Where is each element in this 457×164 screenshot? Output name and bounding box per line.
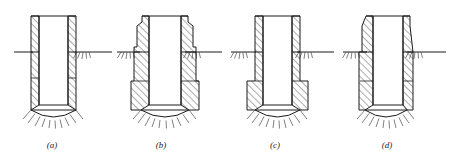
well-wall-right-b bbox=[181, 16, 199, 110]
ground-line-b bbox=[117, 52, 222, 59]
well-wall-left-d bbox=[359, 16, 373, 110]
panel-b bbox=[117, 16, 222, 129]
ground-line-a bbox=[14, 52, 112, 59]
soil-hatch-a bbox=[23, 110, 83, 129]
well-wall-right-d bbox=[403, 16, 413, 110]
well-wall-left-a bbox=[31, 16, 39, 110]
panel-d bbox=[343, 16, 447, 129]
ground-line-d bbox=[343, 52, 447, 59]
panel-c bbox=[231, 16, 335, 129]
caption-panel-c: (c) bbox=[255, 140, 295, 150]
soil-arc-a bbox=[31, 110, 76, 117]
ground-line-c bbox=[231, 52, 335, 59]
well-wall-right-c bbox=[292, 16, 308, 110]
figure-root: (a) (b) (c) (d) bbox=[0, 0, 457, 164]
caption-panel-b: (b) bbox=[141, 140, 181, 150]
soil-hatch-b bbox=[133, 110, 196, 129]
well-wall-left-b bbox=[131, 16, 149, 110]
caption-panel-a: (a) bbox=[32, 140, 72, 150]
soil-hatch-d bbox=[357, 110, 414, 129]
soil-hatch-c bbox=[247, 110, 307, 129]
caption-panel-d: (d) bbox=[367, 140, 407, 150]
soil-arc-b bbox=[141, 110, 189, 117]
panel-a bbox=[14, 16, 112, 129]
well-wall-right-a bbox=[68, 16, 76, 110]
well-wall-left-c bbox=[247, 16, 263, 110]
soil-arc-d bbox=[365, 110, 407, 117]
soil-arc-c bbox=[255, 110, 300, 117]
